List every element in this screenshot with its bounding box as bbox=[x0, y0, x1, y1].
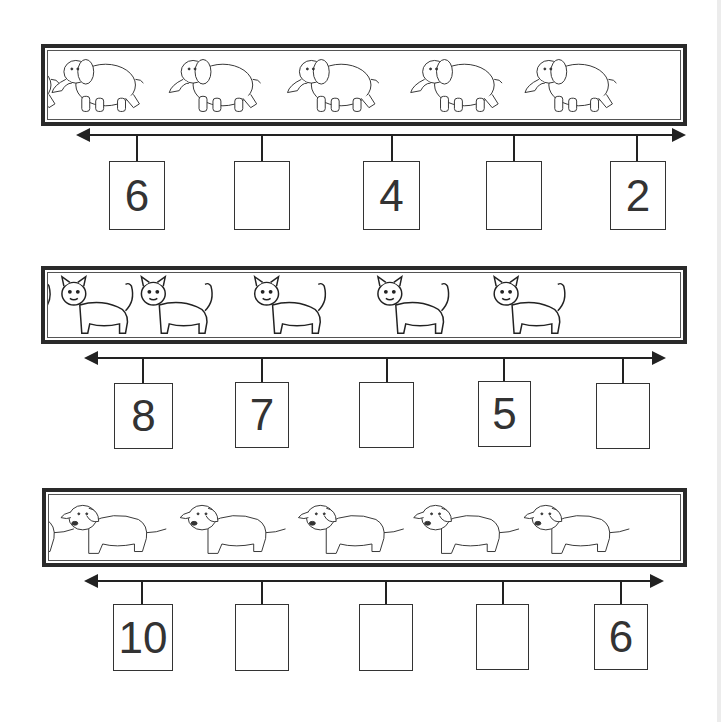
arrow-left-head-icon bbox=[84, 574, 98, 588]
dog-strip-frame bbox=[42, 488, 687, 567]
tick bbox=[385, 581, 387, 605]
tick bbox=[261, 581, 263, 605]
tick bbox=[141, 581, 143, 605]
number-box[interactable] bbox=[476, 604, 529, 670]
number-line-arrow bbox=[96, 580, 652, 582]
dog-icon bbox=[49, 495, 680, 560]
number-box[interactable]: 6 bbox=[594, 604, 648, 670]
arrow-right-head-icon bbox=[650, 574, 664, 588]
tick bbox=[502, 581, 504, 605]
number-box[interactable] bbox=[235, 604, 289, 671]
tick bbox=[620, 581, 622, 605]
number-box[interactable] bbox=[359, 604, 413, 671]
number-box[interactable]: 10 bbox=[113, 604, 173, 671]
dog-row: 10 6 bbox=[0, 0, 721, 700]
